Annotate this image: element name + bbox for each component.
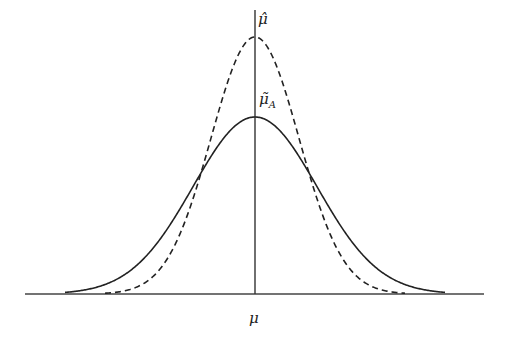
- diagram-canvas: [0, 0, 506, 338]
- mu-axis-label: μ: [249, 311, 259, 326]
- mu-tilde-A-label: μ̃A: [259, 92, 276, 110]
- distribution-diagram: μ̂ μ̃A μ: [0, 0, 506, 338]
- mu-tilde-symbol: μ̃: [259, 90, 269, 108]
- mu-hat-label: μ̂: [258, 12, 268, 27]
- mu-tilde-subscript: A: [269, 99, 276, 110]
